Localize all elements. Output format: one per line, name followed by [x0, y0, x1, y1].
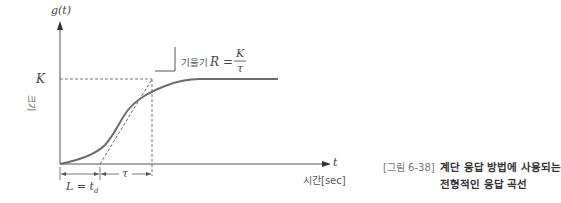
- time-constant-label: τ: [122, 167, 129, 180]
- y-axis-label: g(t): [51, 4, 71, 17]
- slope-marker-icon: [155, 47, 175, 71]
- response-curve: [60, 79, 278, 164]
- caption-title-line2: 전형적인 응답 곡선: [440, 176, 527, 191]
- slope-denominator: τ: [237, 62, 244, 75]
- slope-prefix: 기울기: [181, 57, 208, 68]
- caption-title-line1: 계단 응답 방법에 사용되는: [440, 159, 561, 174]
- delay-dimension: [60, 167, 100, 180]
- slope-equals: =: [223, 55, 233, 69]
- x-axis: [60, 161, 331, 167]
- delay-subscript: d: [94, 187, 99, 195]
- y-axis: [57, 21, 63, 164]
- figure-number: [그림 6-38]: [383, 159, 435, 174]
- steady-state-label: K: [35, 72, 46, 86]
- delay-label: L = t: [65, 180, 95, 193]
- x-axis-arrow-icon: [322, 161, 331, 167]
- y-axis-name: 크기: [26, 95, 36, 111]
- x-axis-label: t: [333, 156, 338, 169]
- slope-variable: R: [209, 55, 219, 69]
- tangent-line: [100, 79, 152, 164]
- slope-numerator: K: [235, 47, 245, 60]
- x-axis-name: 시간[sec]: [303, 175, 346, 186]
- y-axis-arrow-icon: [57, 21, 63, 30]
